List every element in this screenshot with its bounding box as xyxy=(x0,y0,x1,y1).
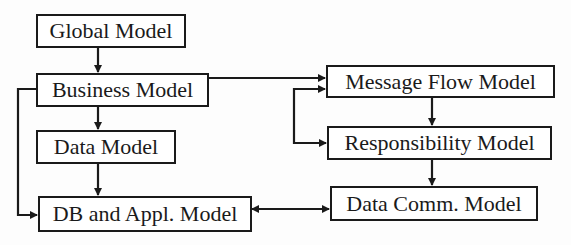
node-responsibility-model: Responsibility Model xyxy=(327,126,552,160)
node-label: DB and Appl. Model xyxy=(53,203,238,225)
node-message-flow-model: Message Flow Model xyxy=(326,65,555,98)
node-label: Responsibility Model xyxy=(344,132,534,154)
node-data-comm-model: Data Comm. Model xyxy=(330,186,538,221)
arrow-responsibility-messageflow-loop xyxy=(294,89,326,143)
arrow-business-to-db-loop xyxy=(18,89,37,215)
node-global-model: Global Model xyxy=(36,14,186,48)
model-flow-diagram: Global Model Business Model Data Model D… xyxy=(0,0,571,245)
node-label: Business Model xyxy=(52,79,193,101)
node-business-model: Business Model xyxy=(36,73,209,107)
node-label: Data Model xyxy=(54,136,158,158)
node-db-appl-model: DB and Appl. Model xyxy=(38,196,252,232)
node-data-model: Data Model xyxy=(36,130,176,164)
node-label: Data Comm. Model xyxy=(346,193,521,215)
node-label: Global Model xyxy=(50,20,173,42)
node-label: Message Flow Model xyxy=(345,71,536,93)
